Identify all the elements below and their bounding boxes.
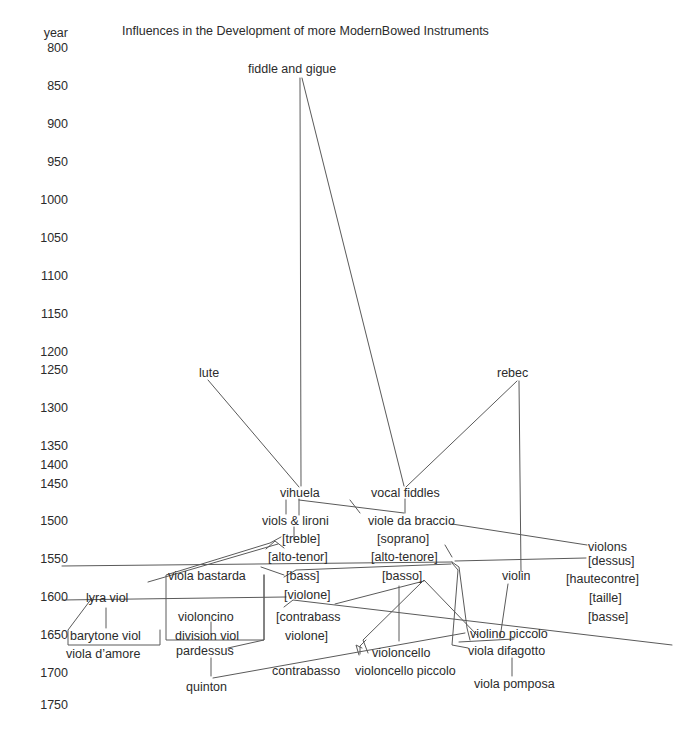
edge-fiddle-to-vocal-fiddles (302, 78, 404, 486)
axis-tick-950: 950 (22, 156, 68, 169)
axis-header: year (22, 27, 68, 40)
axis-tick-1200: 1200 (22, 346, 68, 359)
diagram-canvas: Influences in the Development of more Mo… (0, 0, 675, 737)
node-hautecontre[interactable]: [hautecontre] (566, 573, 639, 586)
node-basso[interactable]: [basso] (382, 570, 422, 583)
node-viola-difagotto[interactable]: viola difagotto (468, 645, 545, 658)
edge-rebec-to-violin (519, 381, 521, 571)
node-taille[interactable]: [taille] (589, 592, 622, 605)
node-treble[interactable]: [treble] (282, 533, 320, 546)
edge-violoncello-piccolo-bracket (356, 645, 362, 655)
node-contrabasso[interactable]: contrabasso (272, 665, 340, 678)
axis-tick-1750: 1750 (22, 699, 68, 712)
node-viola-bastarda[interactable]: viola bastarda (168, 570, 246, 583)
node-alto-tenore[interactable]: [alto-tenore] (371, 551, 438, 564)
axis-tick-1050: 1050 (22, 232, 68, 245)
node-violons[interactable]: violons (588, 541, 627, 554)
axis-tick-1150: 1150 (22, 308, 68, 321)
node-viola-pomposa[interactable]: viola pomposa (474, 678, 555, 691)
edge-rebec-to-vocal-fiddles (406, 381, 517, 487)
node-vihuela[interactable]: vihuela (280, 487, 320, 500)
page-title: Influences in the Development of more Mo… (122, 24, 489, 38)
edge-lute-to-vihuela (208, 380, 299, 487)
axis-tick-1350: 1350 (22, 440, 68, 453)
edge-viola-bastarda-bracket (166, 537, 281, 640)
node-rebec[interactable]: rebec (497, 367, 528, 380)
node-viole-da-braccio[interactable]: viole da braccio (368, 515, 455, 528)
edge-soprano-to-alto-tenore (445, 545, 452, 557)
edge-alto-tenore-to-violino-piccolo (452, 562, 470, 640)
axis-tick-1250: 1250 (22, 364, 68, 377)
node-fiddle-and-gigue[interactable]: fiddle and gigue (248, 63, 336, 76)
node-viols-and-lironi[interactable]: viols & lironi (262, 515, 329, 528)
axis-tick-1650: 1650 (22, 629, 68, 642)
edge-viole-hook (350, 500, 360, 513)
edge-basso-to-violoncello-group (363, 580, 478, 653)
node-soprano[interactable]: [soprano] (377, 533, 429, 546)
node-violoncello[interactable]: violoncello (372, 647, 430, 660)
edge-basso-left-feeder (335, 581, 424, 604)
axis-tick-1550: 1550 (22, 553, 68, 566)
axis-tick-1600: 1600 (22, 591, 68, 604)
node-alto-tenor[interactable]: [alto-tenor] (268, 551, 328, 564)
node-division-viol[interactable]: division viol (175, 630, 239, 643)
axis-tick-1000: 1000 (22, 194, 68, 207)
node-violoncino[interactable]: violoncino (178, 611, 234, 624)
node-contrabass[interactable]: [contrabass (276, 611, 341, 624)
axis-tick-1450: 1450 (22, 478, 68, 491)
edge-violoncello-left-bracket (360, 640, 366, 654)
axis-tick-850: 850 (22, 80, 68, 93)
node-lute[interactable]: lute (199, 367, 219, 380)
node-violoncello-piccolo[interactable]: violoncello piccolo (355, 665, 456, 678)
edge-alto-tenore-to-viola-difagotto (452, 563, 468, 648)
connector-lines-layer (0, 0, 675, 737)
axis-tick-1400: 1400 (22, 459, 68, 472)
edge-fiddle-to-vihuela (300, 78, 301, 486)
edge-vihuela-to-viole-da-braccio (299, 500, 404, 513)
node-violone-close[interactable]: violone] (285, 630, 328, 643)
axis-tick-1700: 1700 (22, 667, 68, 680)
node-violin[interactable]: violin (502, 570, 531, 583)
axis-tick-1100: 1100 (22, 270, 68, 283)
node-viola-damore[interactable]: viola d’amore (66, 648, 140, 661)
edge-viole-da-braccio-to-violons (452, 524, 587, 545)
node-quinton[interactable]: quinton (186, 681, 227, 694)
node-barytone-viol[interactable]: barytone viol (70, 630, 141, 643)
edge-alto-tenore-to-dessus (455, 558, 586, 561)
axis-tick-1500: 1500 (22, 515, 68, 528)
axis-tick-1300: 1300 (22, 402, 68, 415)
node-dessus[interactable]: [dessus] (588, 555, 635, 568)
node-vocal-fiddles[interactable]: vocal fiddles (371, 487, 440, 500)
axis-tick-900: 900 (22, 118, 68, 131)
node-pardessus[interactable]: pardessus (176, 645, 234, 658)
edge-viola-bastarda-to-bass (261, 567, 284, 575)
node-violino-piccolo[interactable]: violino piccolo (470, 628, 548, 641)
axis-tick-800: 800 (22, 42, 68, 55)
node-bass[interactable]: [bass] (286, 570, 319, 583)
node-violone[interactable]: [violone] (284, 589, 331, 602)
node-lyra-viol[interactable]: lyra viol (86, 592, 128, 605)
node-basse[interactable]: [basse] (588, 611, 628, 624)
